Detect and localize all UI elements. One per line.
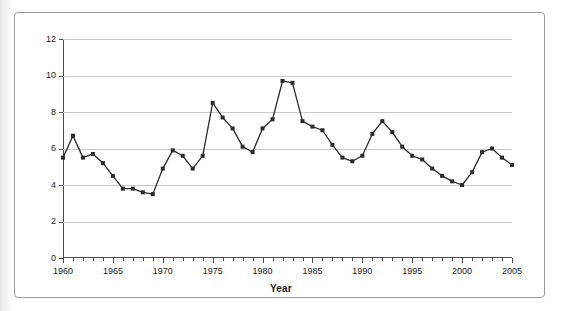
x-tick-label-1975: 1975 [193,267,233,276]
data-point-2000 [460,183,464,187]
x-tick-mark-1969 [153,258,154,261]
y-tick-label-0: 0 [30,254,56,263]
data-point-2004 [500,156,504,160]
data-point-1986 [320,128,324,132]
data-point-1983 [290,81,294,85]
data-point-1968 [141,190,145,194]
x-tick-mark-1979 [253,258,254,261]
x-tick-mark-1996 [422,258,423,261]
data-point-1999 [450,179,454,183]
data-point-1988 [340,156,344,160]
x-tick-label-1965: 1965 [93,267,133,276]
x-tick-mark-1961 [73,258,74,261]
x-tick-mark-2005 [512,258,513,263]
data-point-1984 [300,119,304,123]
y-tick-mark-2 [59,222,63,223]
data-point-1966 [121,187,125,191]
data-point-1970 [161,167,165,171]
y-tick-mark-10 [59,76,63,77]
x-tick-mark-1994 [402,258,403,261]
series-polyline [63,81,512,194]
x-tick-mark-1967 [133,258,134,261]
x-tick-mark-1986 [322,258,323,261]
x-tick-mark-1976 [223,258,224,261]
data-point-1979 [251,150,255,154]
x-tick-mark-1973 [193,258,194,261]
data-point-1977 [231,126,235,130]
y-tick-label-10: 10 [30,71,56,80]
x-tick-mark-1990 [362,258,363,263]
data-point-1982 [281,79,285,83]
y-tick-label-4: 4 [30,181,56,190]
data-point-2003 [490,147,494,151]
line-series-unemployment-rate [63,39,512,258]
x-tick-mark-2001 [472,258,473,261]
data-point-1964 [101,161,105,165]
x-tick-mark-1970 [163,258,164,263]
x-tick-mark-1988 [342,258,343,261]
page-edge-shading [0,0,13,311]
data-point-2002 [480,150,484,154]
data-point-1961 [71,134,75,138]
y-tick-label-8: 8 [30,108,56,117]
y-tick-label-2: 2 [30,217,56,226]
x-tick-mark-1964 [103,258,104,261]
x-tick-mark-1983 [293,258,294,261]
data-point-1969 [151,192,155,196]
y-tick-mark-8 [59,112,63,113]
x-tick-mark-1984 [303,258,304,261]
x-tick-mark-1971 [173,258,174,261]
x-tick-mark-1998 [442,258,443,261]
data-point-1972 [181,154,185,158]
x-tick-mark-2003 [492,258,493,261]
x-tick-mark-2002 [482,258,483,261]
data-point-1963 [91,152,95,156]
x-tick-mark-1974 [203,258,204,261]
x-tick-mark-1965 [113,258,114,263]
data-point-1985 [310,125,314,129]
data-point-1967 [131,187,135,191]
data-point-1992 [380,119,384,123]
data-point-1980 [261,126,265,130]
x-tick-label-1970: 1970 [143,267,183,276]
data-point-1995 [410,154,414,158]
data-point-1973 [191,167,195,171]
x-tick-label-2000: 2000 [442,267,482,276]
x-tick-mark-1968 [143,258,144,261]
x-tick-mark-1993 [392,258,393,261]
x-tick-mark-1978 [243,258,244,261]
data-point-1981 [271,117,275,121]
data-point-2001 [470,170,474,174]
x-tick-mark-1992 [382,258,383,261]
plot-area [63,39,512,258]
x-tick-mark-1980 [263,258,264,263]
data-point-1996 [420,157,424,161]
x-tick-mark-1982 [283,258,284,261]
data-point-1971 [171,148,175,152]
y-tick-mark-6 [59,149,63,150]
x-tick-mark-1999 [452,258,453,261]
x-tick-mark-2000 [462,258,463,263]
y-tick-mark-4 [59,185,63,186]
data-point-1975 [211,101,215,105]
x-tick-mark-1960 [63,258,64,263]
data-point-1998 [440,174,444,178]
data-point-1974 [201,154,205,158]
x-tick-mark-1987 [332,258,333,261]
data-point-1976 [221,115,225,119]
data-point-1978 [241,145,245,149]
x-tick-mark-1975 [213,258,214,263]
x-tick-mark-1985 [312,258,313,263]
x-tick-mark-1963 [93,258,94,261]
y-tick-mark-12 [59,39,63,40]
data-point-1960 [61,156,65,160]
x-tick-mark-1991 [372,258,373,261]
data-point-1962 [81,156,85,160]
x-tick-mark-2004 [502,258,503,261]
x-tick-label-1980: 1980 [243,267,283,276]
data-point-1989 [350,159,354,163]
x-tick-label-1960: 1960 [43,267,83,276]
data-point-2005 [510,163,514,167]
x-tick-label-1995: 1995 [392,267,432,276]
data-point-1987 [330,143,334,147]
